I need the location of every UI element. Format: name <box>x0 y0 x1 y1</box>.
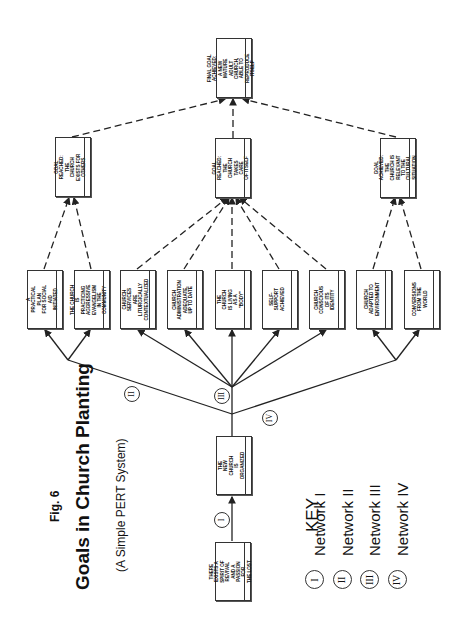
node-number-cell <box>433 271 439 328</box>
node-number-cell <box>385 271 391 328</box>
network-label-i: I <box>214 512 230 528</box>
key-label-network-i: Network I <box>311 493 328 556</box>
node-text: Conversions from the world <box>411 283 427 317</box>
node-social-aid-plan: A practical plan for social aid initiate… <box>27 270 63 329</box>
node-services-contextualized: Church services are liturgically context… <box>120 270 156 329</box>
network-label-ii: II <box>124 386 140 402</box>
node-text: Church conscious of its identity <box>314 285 336 314</box>
node-number-cell <box>244 139 250 197</box>
node-number-cell <box>338 271 344 328</box>
node-number-cell <box>103 271 109 328</box>
node-text: The church is living as a "body" <box>217 285 244 314</box>
figure-subtitle: (A Simple PERT System) <box>114 438 128 572</box>
node-adapted-to-environment: Church adapted to environment <box>356 270 392 329</box>
network-label-iv: IV <box>262 410 278 426</box>
node-number-cell <box>84 138 90 196</box>
node-text: Self-support achieved <box>269 285 285 314</box>
node-text: Church adapted to environment <box>363 283 379 317</box>
figure-label: Fig. 6 <box>48 491 62 522</box>
key-symbol-iii: III <box>360 570 379 589</box>
node-church-organized: The new church is organized <box>216 436 252 495</box>
node-conscious-of-identity: Church conscious of its identity <box>309 270 345 329</box>
key-label-network-iii: Network III <box>366 484 383 556</box>
node-number-cell <box>149 271 155 328</box>
figure-title: Goals in Church Planting <box>72 363 94 590</box>
node-aggressive-evangelism: The church is practicing aggressive evan… <box>74 270 110 329</box>
node-text: Goal reached: the church exists for othe… <box>54 153 86 182</box>
node-number-cell <box>244 271 250 328</box>
node-text: Church services are liturgically context… <box>122 279 149 321</box>
network-label-iii: III <box>214 388 230 404</box>
node-number-cell <box>409 139 415 197</box>
key-label-network-iv: Network IV <box>394 483 411 556</box>
key-symbol-ii: II <box>333 570 352 589</box>
node-administration-adequate: Church administration adequate, up to da… <box>167 270 203 329</box>
node-text: A practical plan for social aid initiate… <box>26 285 58 314</box>
key-symbol-iv: IV <box>388 570 407 589</box>
node-spirit-of-revival: There exists a spirit of revival and a p… <box>215 542 251 601</box>
node-self-support: Self-support achieved <box>262 270 298 329</box>
node-number-cell <box>245 437 251 494</box>
node-number-cell <box>291 271 297 328</box>
node-final-goal: Final goal achieved: a new mature adult … <box>216 38 252 98</box>
node-number-cell <box>244 543 250 600</box>
node-number-cell <box>56 271 62 328</box>
key-label-network-ii: Network II <box>339 488 356 556</box>
node-goal-takes-care-of-itself: Goal reached: the church takes care of i… <box>215 138 251 198</box>
node-number-cell <box>196 271 202 328</box>
node-number-cell <box>245 39 251 97</box>
node-living-as-body: The church is living as a "body" <box>215 270 251 329</box>
node-text: The new church is organized <box>218 451 245 480</box>
node-text: Church administration adequate, up to da… <box>172 280 194 319</box>
node-conversions: Conversions from the world <box>404 270 440 329</box>
node-goal-relevant-to-culture: Goal achieved: the church is relevant to… <box>380 138 416 198</box>
node-goal-exists-for-others: Goal reached: the church exists for othe… <box>55 137 91 197</box>
key-symbol-i: I <box>305 570 324 589</box>
